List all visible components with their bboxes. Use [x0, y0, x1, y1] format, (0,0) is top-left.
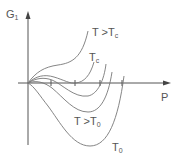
- y-axis-label: G1: [6, 9, 18, 23]
- label-t-0-sub: 0: [119, 147, 123, 154]
- label-t-gt-t0: T >T0: [74, 116, 101, 130]
- label-t-gt-t0-sub: 0: [97, 121, 101, 128]
- label-t-0-main: T: [112, 141, 119, 153]
- curve-t-gt-tc: [28, 31, 88, 83]
- label-t-c: Tc: [89, 52, 99, 66]
- x-axis-label-main: P: [161, 91, 168, 103]
- x-axis-arrow-icon: [163, 81, 171, 86]
- x-axis-label: P: [161, 92, 168, 103]
- label-t-gt-tc-sub: c: [115, 32, 119, 39]
- label-t-c-sub: c: [96, 57, 100, 64]
- curve-t-0: [28, 76, 124, 146]
- label-t-0: T0: [112, 142, 123, 156]
- label-t-gt-tc-main: T >T: [92, 26, 115, 38]
- diagram-svg: [0, 0, 179, 161]
- y-axis-arrow-icon: [26, 11, 31, 19]
- y-axis-label-sub: 1: [15, 14, 19, 21]
- curve-t-between: [28, 64, 106, 96]
- phase-diagram: G1 P T >Tc Tc T >T0 T0: [0, 0, 179, 161]
- label-t-gt-tc: T >Tc: [92, 27, 118, 41]
- y-axis-label-main: G: [6, 8, 15, 20]
- label-t-gt-t0-main: T >T: [74, 115, 97, 127]
- label-t-c-main: T: [89, 51, 96, 63]
